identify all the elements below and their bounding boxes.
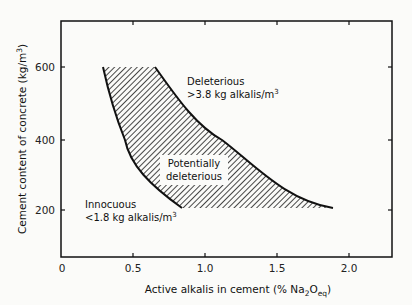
innocuous-threshold: <1.8 kg alkalis/m3 <box>85 211 177 223</box>
innocuous-label: Innocuous <box>85 199 136 210</box>
y-tick-600: 600 <box>35 61 55 73</box>
potentially-label-1: Potentially <box>168 158 221 169</box>
x-tick-0: 0 <box>59 262 66 274</box>
y-tick-200: 200 <box>35 204 55 216</box>
chart: 0 0.5 1.0 1.5 2.0 600 400 200 Active alk… <box>0 0 412 305</box>
potentially-label-2: deleterious <box>166 171 222 182</box>
x-tick-2-0: 2.0 <box>341 262 358 274</box>
y-axis-title: Cement content of concrete (kg/m3) <box>15 44 28 234</box>
deleterious-label: Deleterious <box>187 76 244 87</box>
x-tick-1-5: 1.5 <box>269 262 286 274</box>
x-tick-0-5: 0.5 <box>125 262 142 274</box>
x-tick-1-0: 1.0 <box>197 262 214 274</box>
deleterious-threshold: >3.8 kg alkalis/m3 <box>187 88 279 100</box>
x-axis-title: Active alkalis in cement (% Na2Oeq) <box>145 283 331 298</box>
y-tick-400: 400 <box>35 134 55 146</box>
